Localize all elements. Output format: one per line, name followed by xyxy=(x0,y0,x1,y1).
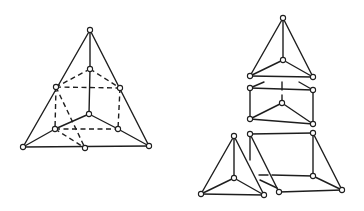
vertex-node xyxy=(20,144,25,149)
edge-visible xyxy=(89,114,118,129)
edge-hidden-dashed xyxy=(56,69,90,87)
vertex-node xyxy=(115,126,120,131)
edge-hidden-dashed xyxy=(56,87,120,88)
vertex-node xyxy=(276,189,281,194)
vertex-node xyxy=(310,87,315,92)
vertex-node xyxy=(82,145,87,150)
vertex-node xyxy=(247,73,252,78)
vertex-node xyxy=(280,57,285,62)
vertex-node xyxy=(231,133,236,138)
tetrahedron-decomposition-diagram xyxy=(0,0,364,211)
edge-hidden-dashed xyxy=(90,69,120,88)
middle-prism xyxy=(247,82,315,127)
vertex-node xyxy=(247,131,252,136)
vertex-node xyxy=(247,116,252,121)
vertex-node xyxy=(53,84,58,89)
vertex-node xyxy=(87,27,92,32)
vertex-node xyxy=(310,173,315,178)
edge-visible xyxy=(89,69,90,114)
bottom-left-small-tetrahedron xyxy=(198,133,266,197)
vertex-node xyxy=(231,175,236,180)
vertex-node xyxy=(117,85,122,90)
edge-visible xyxy=(282,103,313,124)
edge-visible xyxy=(250,134,279,192)
vertex-node xyxy=(339,187,344,192)
edge-visible xyxy=(250,133,313,134)
edge-visible xyxy=(250,119,313,124)
vertex-node xyxy=(310,130,315,135)
edge-visible xyxy=(201,194,264,195)
edge-visible xyxy=(279,190,342,192)
edge-visible xyxy=(313,133,342,190)
top-small-tetrahedron xyxy=(247,15,315,79)
edge-hidden-dashed xyxy=(118,88,120,129)
bottom-right-prism xyxy=(247,130,344,194)
edge-hidden-broken xyxy=(272,175,313,176)
vertex-node xyxy=(86,111,91,116)
edge-visible xyxy=(250,103,282,119)
diagram-canvas xyxy=(0,0,364,211)
edge-hidden-dashed xyxy=(55,129,85,148)
vertex-node xyxy=(310,74,315,79)
vertex-node xyxy=(261,192,266,197)
vertex-node xyxy=(198,191,203,196)
vertex-node xyxy=(279,100,284,105)
vertex-node xyxy=(310,121,315,126)
vertex-node xyxy=(87,66,92,71)
vertex-node xyxy=(146,143,151,148)
vertex-node xyxy=(247,85,252,90)
vertex-node xyxy=(280,15,285,20)
assembled-tetrahedron-with-inner-prism xyxy=(20,27,151,150)
edge-hidden-dashed xyxy=(55,87,56,129)
edge-visible xyxy=(250,76,313,77)
edge-visible xyxy=(313,176,342,190)
vertex-node xyxy=(52,126,57,131)
